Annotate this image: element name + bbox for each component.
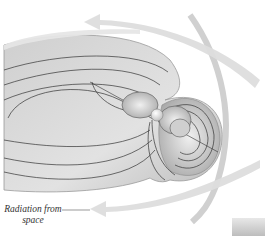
radiation-label-line2: space [22, 215, 44, 225]
gray-swatch [232, 218, 265, 236]
inner-belt-lower [170, 119, 190, 137]
earth-icon [151, 109, 163, 121]
radiation-label: Radiation from space [2, 204, 64, 226]
magnetosphere-diagram [0, 0, 265, 236]
radiation-label-line1: Radiation from [4, 204, 61, 214]
